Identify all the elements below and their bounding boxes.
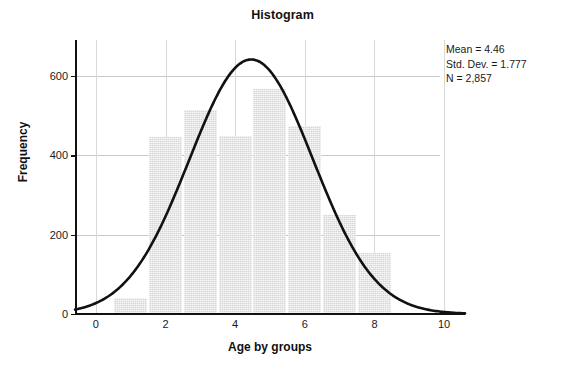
x-tick-label: 0 [93,318,99,330]
y-axis-title: Frequency [16,82,30,222]
plot-area [75,40,440,313]
stat-n: N = 2,857 [446,71,527,86]
chart-title: Histogram [0,8,565,22]
y-axis-line [75,40,77,314]
x-tick-label: 10 [438,318,450,330]
x-tick-label: 4 [232,318,238,330]
gridline-x-0 [96,40,97,313]
x-tick-label: 8 [371,318,377,330]
histogram-bar [184,110,217,313]
histogram-bar [288,126,321,313]
y-tick-label: 0 [28,308,68,320]
y-tick-mark [71,235,75,236]
histogram-bar [114,298,147,313]
y-tick-label: 400 [28,149,68,161]
x-tick-label: 2 [162,318,168,330]
y-tick-mark [71,314,75,315]
y-tick-mark [71,155,75,156]
statistics-annotation: Mean = 4.46 Std. Dev. = 1.777 N = 2,857 [446,42,527,86]
x-tick-label: 6 [302,318,308,330]
y-tick-mark [71,76,75,77]
histogram-bar [149,137,182,313]
gridline-x-10 [444,40,445,313]
x-axis-title: Age by groups [75,340,465,354]
histogram-bar [219,136,252,313]
histogram-bar [358,253,391,313]
histogram-bar [253,89,286,313]
gridline-y-600 [75,76,440,77]
y-tick-label: 600 [28,70,68,82]
x-axis-line [75,313,465,315]
y-tick-label: 200 [28,229,68,241]
stat-mean: Mean = 4.46 [446,42,527,57]
histogram-figure: Histogram Mean = 4.46 Std. Dev. = 1.777 … [0,0,565,370]
stat-std-dev: Std. Dev. = 1.777 [446,57,527,72]
histogram-bar [323,215,356,313]
